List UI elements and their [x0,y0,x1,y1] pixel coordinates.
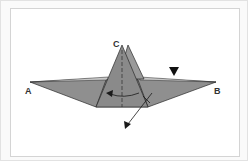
right-wing [136,78,216,107]
origami-diagram: A B C [0,0,248,161]
label-a: A [25,86,32,96]
label-b: B [214,86,221,96]
flip-arrow-head-icon [124,121,131,129]
push-in-triangle-marker-icon [169,67,179,76]
label-c: C [113,39,120,49]
